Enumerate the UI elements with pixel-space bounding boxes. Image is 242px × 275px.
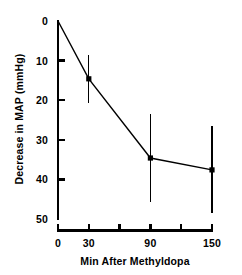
data-point-marker (148, 155, 153, 160)
axes-group (57, 20, 213, 231)
y-axis-tick-label: 0 (0, 15, 48, 27)
x-axis-tick-label: 30 (83, 237, 95, 249)
y-axis-tick-label: 10 (0, 55, 48, 67)
x-axis-tick-label: 150 (203, 237, 221, 249)
x-axis-tick-label: 0 (55, 237, 61, 249)
chart-figure: Decrease in MAP (mmHg) Min After Methyld… (0, 0, 242, 275)
y-axis-tick-label: 20 (0, 94, 48, 106)
x-axis-tick-label: 90 (144, 237, 156, 249)
data-point-marker (209, 167, 214, 172)
data-line (58, 21, 212, 170)
data-point-marker (86, 76, 91, 81)
y-axis-tick-label: 30 (0, 134, 48, 146)
x-axis-title: Min After Methyldopa (40, 255, 230, 267)
y-axis-tick-label: 40 (0, 173, 48, 185)
y-axis-tick-label: 50 (0, 213, 48, 225)
data-series-group (58, 21, 215, 213)
